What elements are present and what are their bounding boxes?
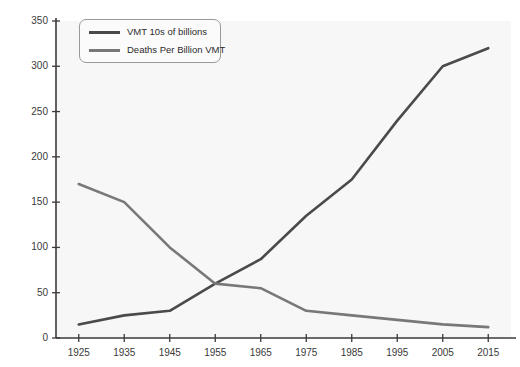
x-axis-tick-label: 1925 (59, 348, 99, 358)
legend-swatch-vmt (89, 31, 120, 34)
x-axis-tick-label: 1985 (332, 348, 372, 358)
y-axis-tick-label: 350 (12, 16, 48, 26)
line-chart: 050100150200250300350 192519351945195519… (0, 0, 520, 367)
legend-label-vmt: VMT 10s of billions (127, 27, 207, 37)
axes (52, 18, 516, 342)
chart-legend: VMT 10s of billions Deaths Per Billion V… (79, 19, 221, 63)
y-axis-tick-label: 250 (12, 107, 48, 117)
y-axis-tick-label: 0 (12, 333, 48, 343)
x-axis-tick-label: 1975 (286, 348, 326, 358)
y-axis-tick-label: 200 (12, 152, 48, 162)
x-axis-tick-label: 1965 (241, 348, 281, 358)
x-axis-tick-label: 1995 (377, 348, 417, 358)
x-axis-tick-label: 1935 (104, 348, 144, 358)
series-line (79, 48, 489, 324)
legend-swatch-deaths (89, 49, 120, 52)
x-axis-tick-label: 2015 (468, 348, 508, 358)
legend-entry-deaths: Deaths Per Billion VMT (89, 43, 225, 57)
legend-entry-vmt: VMT 10s of billions (89, 25, 207, 39)
series-line (79, 184, 489, 327)
x-axis-tick-label: 2005 (423, 348, 463, 358)
chart-canvas (0, 0, 520, 367)
y-axis-tick-label: 100 (12, 242, 48, 252)
x-axis-tick-label: 1945 (150, 348, 190, 358)
y-axis-tick-label: 50 (12, 288, 48, 298)
x-axis-tick-label: 1955 (195, 348, 235, 358)
data-series (79, 48, 489, 327)
legend-label-deaths: Deaths Per Billion VMT (127, 45, 225, 55)
y-axis-tick-label: 300 (12, 61, 48, 71)
y-axis-tick-label: 150 (12, 197, 48, 207)
